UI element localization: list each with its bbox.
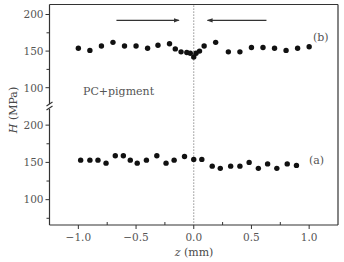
data-point [76,45,81,50]
data-point [213,40,218,45]
data-point [260,45,265,50]
data-point [128,157,133,162]
series-b-label: (b) [313,31,329,44]
y-axis-label: H (MPa) [7,87,20,134]
data-point [283,48,288,53]
sample-label: PC+pigment [83,85,155,98]
data-point [145,45,150,50]
data-point [246,160,251,165]
data-point [122,43,127,48]
data-point [87,157,92,162]
data-point [201,43,206,48]
data-point [167,41,172,46]
data-point [228,163,233,168]
y-axis-symbol: H [7,123,20,134]
data-point [163,160,168,165]
data-point [249,45,254,50]
y-tick-label: 150 [23,45,43,57]
data-point [237,163,242,168]
data-point [87,48,92,53]
data-point [135,160,140,165]
data-point [113,153,118,158]
y-tick-label: 200 [23,8,43,20]
y-tick-label: 200 [23,119,43,131]
data-point [210,163,215,168]
data-point [294,163,299,168]
y-tick-label: 150 [23,156,43,168]
data-point [103,160,108,165]
data-point [173,46,178,51]
x-tick-label: −0.5 [123,231,149,243]
data-point [99,43,104,48]
series-a-label: (a) [309,154,324,167]
data-point [178,49,183,54]
data-point [121,153,126,158]
data-point [237,49,242,54]
data-point [110,40,115,45]
data-point [256,166,261,171]
y-tick-label: 100 [23,193,43,205]
data-point [155,43,160,48]
x-axis-label: z (mm) [174,246,214,259]
data-point [191,157,196,162]
data-point [171,157,176,162]
x-tick-label: 0.5 [243,231,260,243]
y-axis-unit: (MPa) [7,87,20,120]
data-point [295,45,300,50]
data-point [133,43,138,48]
plot-frame [47,5,339,226]
x-axis-symbol: z [174,246,181,259]
x-axis-unit: (mm) [184,246,213,259]
x-tick-label: 0.0 [185,231,202,243]
series-a [78,153,299,171]
data-point [272,45,277,50]
data-point [265,161,270,166]
data-point [306,44,311,49]
hardness-profile-chart: −1.0−0.50.00.51.0100150200100150200 z (m… [0,0,344,262]
data-point [199,157,204,162]
data-point [197,48,202,53]
y-tick-label: 100 [23,82,43,94]
data-point [95,157,100,162]
axis-ticks [46,15,310,229]
data-point [182,154,187,159]
data-point [274,166,279,171]
data-point [226,49,231,54]
data-point [78,157,83,162]
data-point [154,153,159,158]
x-tick-label: 1.0 [301,231,318,243]
x-tick-label: −1.0 [66,231,92,243]
data-point [144,157,149,162]
data-point [285,161,290,166]
data-point [218,166,223,171]
